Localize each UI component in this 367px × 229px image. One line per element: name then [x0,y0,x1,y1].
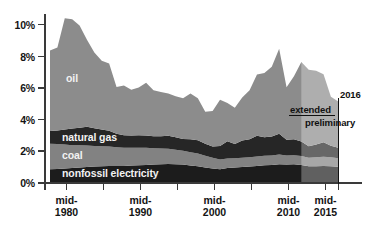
x-axis-line [38,182,362,184]
annotation-preliminary: preliminary [305,117,355,128]
y-tick-label-6: 6% [2,82,35,94]
chart-root: 10% 8% 6% 4% 2% 0% mid- 1980 mid- 1990 m… [0,0,367,229]
x-tick-label-2000-line1: mid- [188,195,241,207]
y-axis-line [44,14,46,190]
x-tick-2005 [251,183,252,190]
x-tick-label-1980: mid- 1980 [40,195,93,218]
year-2016-marker-line [338,98,339,184]
x-tick-label-2000-line2: 2000 [188,207,241,219]
series-label-natural-gas: natural gas [62,131,117,143]
x-tick-label-2015-line2: 2015 [299,207,352,219]
y-tick-label-2: 2% [2,145,35,157]
x-tick-label-2015: mid- 2015 [299,195,352,218]
x-tick-2015 [325,183,326,190]
y-tick-label-4: 4% [2,114,35,126]
x-tick-2016 [338,183,339,190]
x-tick-label-1990-line1: mid- [114,195,167,207]
x-tick-label-1980-line2: 1980 [40,207,93,219]
x-tick-label-1990-line2: 1990 [114,207,167,219]
x-tick-1980 [66,183,67,190]
x-tick-label-2000: mid- 2000 [188,195,241,218]
x-tick-label-1990: mid- 1990 [114,195,167,218]
y-tick-label-0: 0% [2,177,35,189]
annotation-extended: extended [290,104,331,115]
y-tick-8 [38,56,45,57]
x-tick-2000 [214,183,215,190]
annotation-extended-rule [289,115,335,116]
series-label-coal: coal [62,149,83,161]
y-tick-6 [38,87,45,88]
x-tick-1990 [140,183,141,190]
y-tick-4 [38,119,45,120]
y-tick-10 [38,24,45,25]
series-label-oil: oil [66,72,78,84]
y-tick-label-8: 8% [2,51,35,63]
x-tick-1985 [103,183,104,190]
x-tick-label-2015-line1: mid- [299,195,352,207]
y-tick-label-10: 10% [2,19,35,31]
x-tick-label-1980-line1: mid- [40,195,93,207]
series-label-nonfossil-electricity: nonfossil electricity [62,167,159,179]
x-tick-1995 [177,183,178,190]
y-tick-2 [38,150,45,151]
x-tick-2010 [288,183,289,190]
annotation-year-2016: 2016 [340,89,361,100]
